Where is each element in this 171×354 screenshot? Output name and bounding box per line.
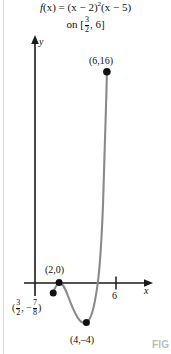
point-local-min [83,319,90,326]
x-axis-label: x [144,285,148,296]
label-endpoint-left-fraction-x: 32 [16,299,20,317]
endpoint-left-x-numerator: 3 [16,299,20,308]
endpoint-left-y-denominator: 8 [33,308,37,318]
label-endpoint-right: (6,16) [89,55,113,66]
label-endpoint-left-fraction-y: 78 [33,299,37,317]
point-endpoint-right [103,68,111,76]
label-local-min: (4,–4) [70,334,94,345]
label-local-max: (2,0) [45,264,64,275]
endpoint-left-x-denominator: 2 [16,308,20,318]
endpoint-left-y-numerator: 7 [33,299,37,308]
y-axis-label: y [39,36,43,47]
function-curve [53,73,107,323]
label-endpoint-left: (32, −78) [12,299,41,317]
point-local-max [56,279,63,286]
label-endpoint-left-close: ) [38,302,41,313]
point-endpoint-left [50,289,57,296]
label-endpoint-left-mid: , − [21,302,32,313]
label-endpoint-left-open: ( [12,302,15,313]
figure-page: f(x) = (x − 2)2(x − 5) on [32, 6] y x 6 … [0,0,171,354]
figure-caption-tag: FIG [152,339,170,350]
x-tick-label-6: 6 [112,290,117,301]
y-axis [31,35,39,296]
x-axis [24,279,153,287]
